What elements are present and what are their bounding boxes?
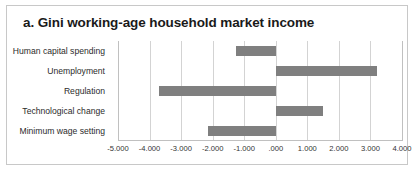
bar-row: Minimum wage setting [118,121,402,141]
x-tick-label: -4.000 [139,144,161,153]
bar-row: Human capital spending [118,41,402,61]
bar-regulation [159,86,276,96]
x-tick-label: -2.000 [202,144,224,153]
bar-human-capital-spending [236,46,275,56]
bar-technological-change [276,106,323,116]
bar-minimum-wage-setting [208,126,276,136]
category-label: Human capital spending [13,41,105,61]
plot-area: Human capital spending Unemployment Regu… [118,41,402,141]
x-tick-label: -5.000 [107,144,129,153]
x-tick-label: .000 [268,144,283,153]
chart-container: a. Gini working-age household market inc… [6,5,408,165]
x-tick-label: -1.000 [233,144,255,153]
bar-row: Regulation [118,81,402,101]
bar-unemployment [276,66,377,76]
category-label: Regulation [64,81,105,101]
category-label: Technological change [22,101,105,121]
x-tick-label: 3.000 [361,144,380,153]
x-tick-label: 4.000 [392,144,411,153]
chart-title: a. Gini working-age household market inc… [23,15,314,30]
bar-row: Unemployment [118,61,402,81]
category-label: Minimum wage setting [20,121,106,141]
gridline [402,41,403,141]
x-tick-label: 2.000 [329,144,348,153]
category-label: Unemployment [47,61,105,81]
x-tick-label: 1.000 [298,144,317,153]
x-tick-label: -3.000 [170,144,192,153]
bar-row: Technological change [118,101,402,121]
